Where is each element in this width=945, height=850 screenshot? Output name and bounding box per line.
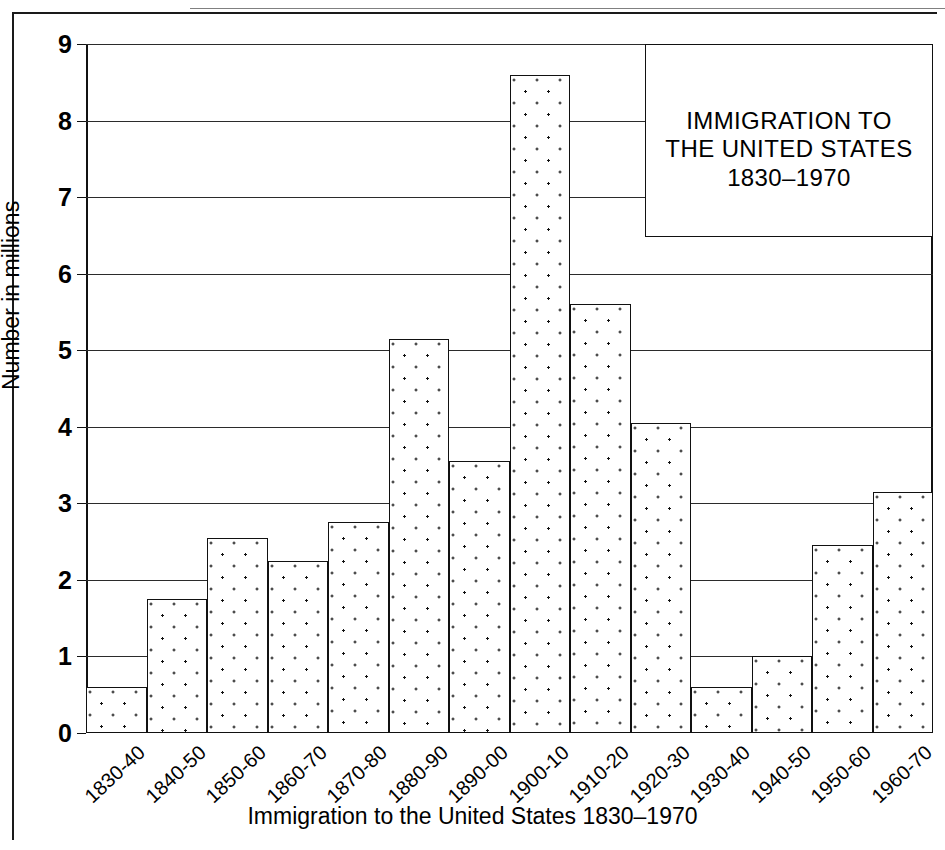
bar-1890-00 xyxy=(449,461,510,733)
x-tick-label-1880-90: 1880-90 xyxy=(383,741,452,808)
chart-title-line-3: 1830–1970 xyxy=(665,164,912,192)
chart-title-text: IMMIGRATION TO THE UNITED STATES 1830–19… xyxy=(665,89,912,191)
y-tick-1 xyxy=(77,656,86,657)
y-tick-3 xyxy=(77,503,86,504)
scan-artifact-line xyxy=(190,8,945,9)
x-tick-label-1950-60: 1950-60 xyxy=(807,741,876,808)
y-tick-4 xyxy=(77,427,86,428)
bar-1840-50 xyxy=(147,599,208,733)
y-axis-title: Number in millions xyxy=(0,201,25,390)
bar-1940-50 xyxy=(752,656,813,733)
x-tick-label-1930-40: 1930-40 xyxy=(686,741,755,808)
bar-1850-60 xyxy=(207,538,268,733)
x-tick-label-1910-20: 1910-20 xyxy=(565,741,634,808)
x-tick-label-1830-40: 1830-40 xyxy=(81,741,150,808)
y-tick-0 xyxy=(77,733,86,734)
y-tick-9 xyxy=(77,44,86,45)
bar-1900-10 xyxy=(510,75,571,733)
y-tick-7 xyxy=(77,197,86,198)
bar-1870-80 xyxy=(328,522,389,733)
y-tick-label-4: 4 xyxy=(58,412,72,441)
chart-title-line-2: THE UNITED STATES xyxy=(665,135,912,163)
chart-title-line-1: IMMIGRATION TO xyxy=(665,107,912,135)
y-tick-label-7: 7 xyxy=(58,183,72,212)
x-tick-label-1900-10: 1900-10 xyxy=(504,741,573,808)
bar-1830-40 xyxy=(86,687,147,733)
x-tick-label-1840-50: 1840-50 xyxy=(141,741,210,808)
y-tick-2 xyxy=(77,580,86,581)
x-tick-label-1890-00: 1890-00 xyxy=(444,741,513,808)
y-tick-label-8: 8 xyxy=(58,106,72,135)
y-tick-label-0: 0 xyxy=(58,719,72,748)
chart-page: Number in millions 0123456789 1830-40184… xyxy=(0,0,945,850)
y-tick-label-5: 5 xyxy=(58,336,72,365)
y-tick-label-2: 2 xyxy=(58,565,72,594)
bar-1950-60 xyxy=(812,545,873,733)
y-tick-label-3: 3 xyxy=(58,489,72,518)
y-tick-5 xyxy=(77,350,86,351)
x-tick-label-1870-80: 1870-80 xyxy=(323,741,392,808)
x-tick-label-1940-50: 1940-50 xyxy=(746,741,815,808)
x-tick-label-1920-30: 1920-30 xyxy=(625,741,694,808)
y-tick-8 xyxy=(77,121,86,122)
x-tick-label-1960-70: 1960-70 xyxy=(867,741,936,808)
bar-1860-70 xyxy=(268,561,329,733)
bar-1910-20 xyxy=(570,304,631,733)
bar-1930-40 xyxy=(691,687,752,733)
x-axis-title: Immigration to the United States 1830–19… xyxy=(0,803,945,830)
y-tick-6 xyxy=(77,274,86,275)
bar-1960-70 xyxy=(873,492,934,733)
y-tick-label-1: 1 xyxy=(58,642,72,671)
y-tick-label-6: 6 xyxy=(58,259,72,288)
bar-1880-90 xyxy=(389,339,450,733)
chart-title-box: IMMIGRATION TO THE UNITED STATES 1830–19… xyxy=(645,44,933,237)
bar-1920-30 xyxy=(631,423,692,733)
x-tick-label-1860-70: 1860-70 xyxy=(262,741,331,808)
x-tick-label-1850-60: 1850-60 xyxy=(202,741,271,808)
y-tick-label-9: 9 xyxy=(58,30,72,59)
